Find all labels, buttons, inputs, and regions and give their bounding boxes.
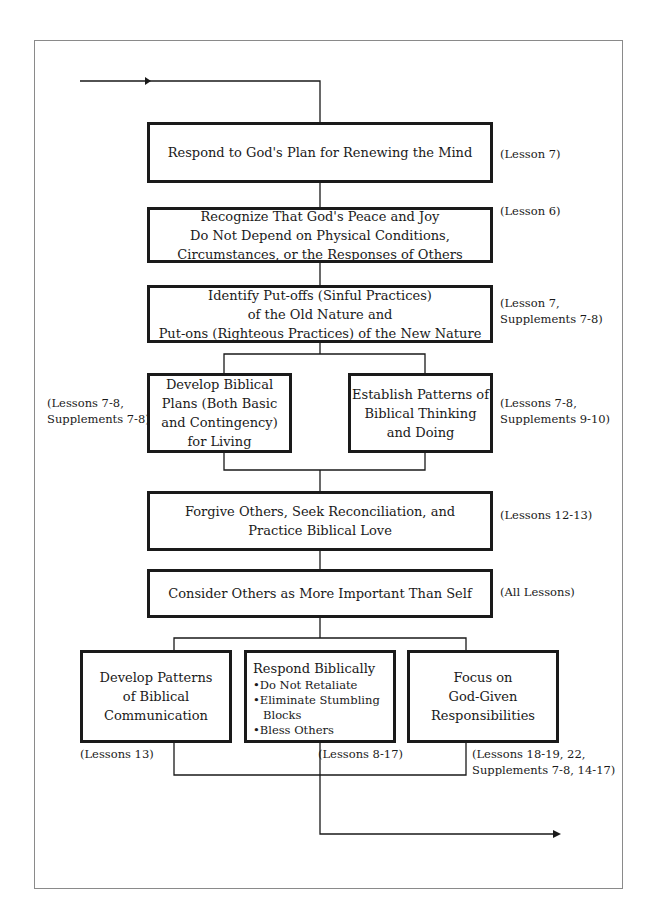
ref-biblical-plans: (Lessons 7-8, Supplements 7-8) <box>47 395 150 427</box>
node-patterns-thinking: Establish Patterns of Biblical Thinking … <box>348 373 493 453</box>
arrowhead-icon <box>553 830 561 838</box>
node-biblical-plans: Develop Biblical Plans (Both Basic and C… <box>147 373 292 453</box>
node-focus-responsibilities: Focus on God-Given Responsibilities <box>407 650 559 743</box>
node-putoffs: Identify Put-offs (Sinful Practices) of … <box>147 285 493 343</box>
ref-focus-responsibilities: (Lessons 18-19, 22, Supplements 7-8, 14-… <box>472 746 615 778</box>
ref-forgive: (Lessons 12-13) <box>500 507 592 523</box>
node-respond-biblically: Respond Biblically •Do Not Retaliate •El… <box>244 650 396 743</box>
node-forgive: Forgive Others, Seek Reconciliation, and… <box>147 491 493 551</box>
ref-communication: (Lessons 13) <box>80 746 154 762</box>
node-renew-mind: Respond to God's Plan for Renewing the M… <box>147 122 493 183</box>
node-peace-joy: Recognize That God's Peace and Joy Do No… <box>147 207 493 263</box>
node-consider-others: Consider Others as More Important Than S… <box>147 569 493 618</box>
ref-respond-biblically: (Lessons 8-17) <box>318 746 403 762</box>
ref-peace-joy: (Lesson 6) <box>500 203 561 219</box>
ref-renew-mind: (Lesson 7) <box>500 146 561 162</box>
ref-putoffs: (Lesson 7, Supplements 7-8) <box>500 295 603 327</box>
node-communication: Develop Patterns of Biblical Communicati… <box>80 650 232 743</box>
arrowhead-icon <box>145 77 151 85</box>
ref-patterns-thinking: (Lessons 7-8, Supplements 9-10) <box>500 395 610 427</box>
ref-consider-others: (All Lessons) <box>500 584 575 600</box>
